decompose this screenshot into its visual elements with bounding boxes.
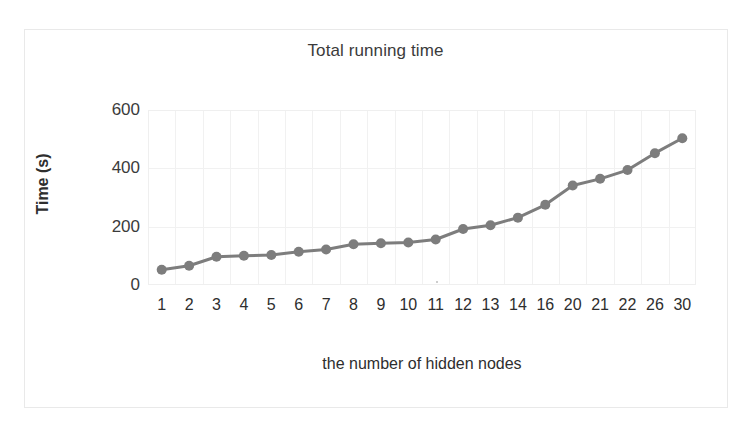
x-tick-label: 7: [322, 296, 331, 314]
data-point-marker: [184, 261, 194, 271]
data-point-marker: [212, 252, 222, 262]
x-axis-tick-labels: 1234567891011121314162021222630: [148, 296, 696, 322]
y-axis-tick-labels: 0200400600: [86, 110, 140, 285]
y-tick-label: 600: [112, 100, 140, 120]
data-point-marker: [321, 244, 331, 254]
data-point-marker: [540, 200, 550, 210]
x-tick-label: 14: [509, 296, 527, 314]
data-point-marker: [403, 237, 413, 247]
data-point-marker: [677, 133, 687, 143]
data-point-marker: [376, 238, 386, 248]
data-point-marker: [349, 239, 359, 249]
y-axis-label: Time (s): [34, 124, 52, 244]
x-tick-label: 2: [185, 296, 194, 314]
series-line-total-running-time: [148, 110, 696, 285]
y-tick-label: 400: [112, 158, 140, 178]
data-point-marker: [294, 247, 304, 257]
series-polyline: [162, 138, 683, 270]
x-tick-label: 22: [619, 296, 637, 314]
y-tick-label: 200: [112, 217, 140, 237]
data-point-marker: [431, 235, 441, 245]
x-tick-label: 26: [646, 296, 664, 314]
data-point-marker: [239, 251, 249, 261]
data-point-marker: [595, 174, 605, 184]
x-tick-label: 12: [454, 296, 472, 314]
x-tick-label: 6: [294, 296, 303, 314]
data-point-marker: [486, 220, 496, 230]
data-point-marker: [266, 250, 276, 260]
x-axis-label: the number of hidden nodes: [148, 355, 696, 373]
data-point-marker: [623, 165, 633, 175]
chart-figure: Total running time Time (s) 0200400600 1…: [0, 0, 751, 425]
x-tick-label: 21: [591, 296, 609, 314]
x-tick-label: 16: [536, 296, 554, 314]
x-tick-label: 8: [349, 296, 358, 314]
x-tick-label: 3: [212, 296, 221, 314]
chart-title: Total running time: [0, 41, 751, 61]
x-tick-label: 9: [376, 296, 385, 314]
x-tick-label: 13: [482, 296, 500, 314]
y-tick-label: 0: [131, 275, 140, 295]
x-tick-label: 10: [399, 296, 417, 314]
scan-speck: [436, 281, 438, 283]
data-point-marker: [513, 213, 523, 223]
data-point-marker: [568, 181, 578, 191]
x-tick-label: 11: [427, 296, 444, 314]
x-tick-label: 5: [267, 296, 276, 314]
plot-area: [148, 110, 696, 285]
x-tick-label: 20: [564, 296, 582, 314]
data-point-marker: [650, 148, 660, 158]
x-tick-label: 1: [157, 296, 166, 314]
x-tick-label: 4: [239, 296, 248, 314]
x-tick-label: 30: [673, 296, 691, 314]
data-point-marker: [458, 224, 468, 234]
data-point-marker: [157, 265, 167, 275]
